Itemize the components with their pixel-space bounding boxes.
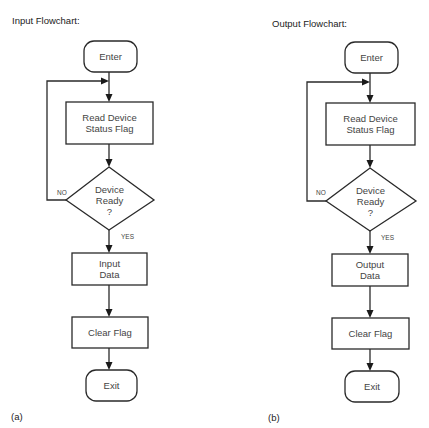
output-flowchart-title: Output Flowchart: [272, 18, 347, 29]
output-read-node: Read Device Status Flag [326, 103, 415, 145]
input-clear-node: Clear Flag [72, 317, 148, 348]
input-decision-node: Device Ready ? [66, 167, 154, 230]
input-flowchart-caption: (a) [11, 411, 23, 422]
output-no-label: NO [316, 189, 326, 196]
input-start-label: Enter [99, 51, 122, 62]
arrowhead-icon [367, 246, 374, 254]
input-data-node: Input Data [72, 253, 147, 285]
output-flowchart: Output Flowchart: Enter Read Device Stat… [268, 18, 416, 423]
flowchart-canvas: Input Flowchart: Enter Read Device Statu… [0, 0, 429, 428]
output-end-label: Exit [364, 381, 380, 392]
output-decision-node: Device Ready ? [326, 168, 416, 231]
output-clear-label: Clear Flag [349, 328, 393, 339]
input-decision-label-line1: Device [95, 184, 124, 195]
output-decision-label-line1: Device [356, 185, 385, 196]
output-decision-label-line3: ? [368, 207, 373, 218]
arrowhead-icon [106, 245, 113, 253]
arrowhead-icon [106, 159, 113, 167]
output-yes-label: YES [381, 234, 395, 241]
input-start-node: Enter [84, 41, 137, 72]
output-data-label-line1: Output [356, 259, 385, 270]
output-flowchart-caption: (b) [268, 412, 280, 423]
input-data-label-line2: Data [99, 269, 120, 280]
input-decision-label-line3: ? [107, 206, 112, 217]
input-no-label: NO [57, 189, 67, 196]
output-decision-label-line2: Ready [357, 196, 385, 207]
input-yes-label: YES [121, 233, 135, 240]
arrowhead-icon [106, 362, 113, 370]
arrowhead-icon [367, 363, 374, 371]
arrowhead-icon [362, 79, 370, 86]
output-read-label-line1: Read Device [343, 113, 397, 124]
arrowhead-icon [367, 310, 374, 318]
arrowhead-icon [367, 95, 374, 103]
input-decision-label-line2: Ready [96, 195, 124, 206]
arrowhead-icon [101, 78, 109, 85]
output-data-label-line2: Data [360, 270, 381, 281]
output-read-label-line2: Status Flag [346, 124, 394, 135]
output-start-node: Enter [345, 42, 398, 73]
arrowhead-icon [106, 309, 113, 317]
input-read-label-line2: Status Flag [85, 123, 133, 134]
input-clear-label: Clear Flag [88, 327, 132, 338]
input-flowchart-title: Input Flowchart: [12, 15, 80, 26]
input-flowchart: Input Flowchart: Enter Read Device Statu… [11, 15, 154, 422]
output-clear-node: Clear Flag [332, 318, 409, 349]
input-data-label-line1: Input [99, 258, 120, 269]
arrowhead-icon [367, 160, 374, 168]
input-end-node: Exit [86, 370, 137, 401]
input-end-label: Exit [104, 380, 120, 391]
output-end-node: Exit [345, 371, 399, 402]
arrowhead-icon [106, 94, 113, 102]
output-data-node: Output Data [332, 254, 408, 286]
input-read-node: Read Device Status Flag [66, 102, 153, 144]
input-read-label-line1: Read Device [82, 112, 136, 123]
output-start-label: Enter [360, 52, 383, 63]
